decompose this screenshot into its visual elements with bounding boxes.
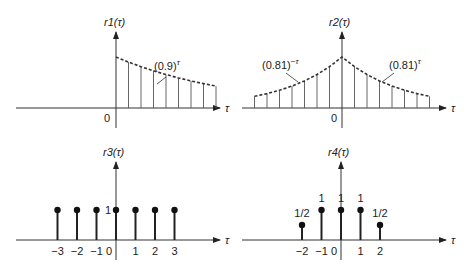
- annotation-right: (0.81)τ: [389, 57, 422, 71]
- value-label: 1: [357, 192, 363, 204]
- plot-r3: r3(τ) τ 1 −3−2−11230: [16, 146, 230, 260]
- tick-labels: −3−2−11230: [51, 245, 177, 257]
- annotation: (0.9)τ: [154, 58, 181, 72]
- value-label: 1: [338, 192, 344, 204]
- autocorrelation-figure: r1(τ) τ 0 (0.9)τ r2(τ) τ 0 (0.81)−τ (0.8…: [0, 0, 467, 268]
- origin-label: 0: [331, 112, 337, 124]
- x-axis-label: τ: [225, 102, 230, 114]
- value-label: 1/2: [294, 207, 309, 219]
- plot-title: r1(τ): [104, 16, 126, 28]
- x-axis-label: τ: [451, 102, 456, 114]
- plot-r1: r1(τ) τ 0 (0.9)τ: [16, 16, 230, 128]
- plot-r4: r4(τ) τ −2−1120 1/21111/2: [242, 146, 456, 260]
- stems: [54, 207, 177, 240]
- tick-labels: −2−1120: [296, 245, 383, 257]
- tick-label: 1: [132, 245, 138, 257]
- stem-dot: [357, 207, 363, 213]
- x-axis-label: τ: [225, 234, 230, 246]
- tick-label: 0: [106, 245, 112, 257]
- stems: [299, 207, 383, 240]
- plot-title: r4(τ): [328, 146, 350, 158]
- tick-label: −1: [315, 245, 328, 257]
- annotation-leader-left: [286, 73, 298, 82]
- value-label: 1: [318, 192, 324, 204]
- annotation-leader: [157, 77, 166, 84]
- tick-label: −2: [296, 245, 309, 257]
- tick-label: 0: [331, 245, 337, 257]
- stem-dot: [132, 207, 138, 213]
- tick-label: −2: [71, 245, 84, 257]
- stem-dot: [318, 207, 324, 213]
- stem-dot: [93, 207, 99, 213]
- tick-label: −1: [90, 245, 103, 257]
- tick-label: −3: [51, 245, 64, 257]
- tick-label: 3: [171, 245, 177, 257]
- plot-title: r3(τ): [103, 146, 125, 158]
- value-label: 1: [105, 204, 111, 216]
- origin-label: 0: [104, 112, 110, 124]
- tick-label: 2: [152, 245, 158, 257]
- tick-label: 1: [357, 245, 363, 257]
- annotation-leader-right: [382, 73, 394, 82]
- tick-label: 2: [377, 245, 383, 257]
- stem-dot: [338, 207, 344, 213]
- plot-title: r2(τ): [329, 16, 351, 28]
- stem-dot: [171, 207, 177, 213]
- stem-dot: [299, 222, 305, 228]
- value-label: 1/2: [372, 207, 387, 219]
- stem-dot: [54, 207, 60, 213]
- annotation-left: (0.81)−τ: [262, 57, 299, 71]
- stem-dot: [74, 207, 80, 213]
- stem-dot: [113, 207, 119, 213]
- stem-dot: [377, 222, 383, 228]
- stem-dot: [152, 207, 158, 213]
- plot-r2: r2(τ) τ 0 (0.81)−τ (0.81)τ: [242, 16, 456, 128]
- x-axis-label: τ: [451, 234, 456, 246]
